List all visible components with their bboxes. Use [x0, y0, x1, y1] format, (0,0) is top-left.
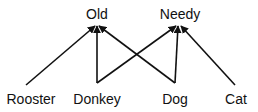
concept-diagram: Old Needy Rooster Donkey Dog Cat: [0, 0, 258, 112]
edge-rooster-to-old: [26, 26, 95, 85]
node-rooster: Rooster: [6, 92, 55, 106]
node-dog: Dog: [162, 92, 188, 106]
node-donkey: Donkey: [73, 92, 120, 106]
node-old: Old: [86, 7, 108, 21]
node-cat: Cat: [225, 92, 247, 106]
edge-dog-to-needy: [175, 26, 178, 83]
edge-cat-to-needy: [181, 26, 235, 85]
node-needy: Needy: [160, 7, 200, 21]
